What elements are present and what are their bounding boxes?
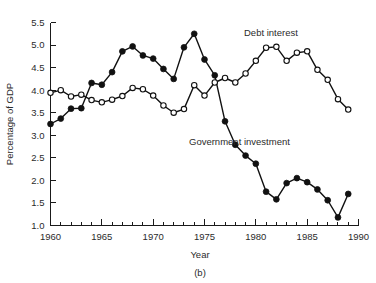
data-point — [109, 69, 115, 75]
data-point — [253, 161, 259, 167]
data-series-group — [48, 31, 352, 220]
data-point — [140, 87, 145, 92]
data-point — [212, 80, 217, 85]
x-tick-label: 1990 — [348, 231, 369, 242]
data-point — [48, 90, 53, 95]
data-point — [212, 72, 218, 78]
y-tick-label: 3.5 — [31, 107, 44, 118]
data-point — [181, 44, 187, 50]
data-point — [130, 44, 136, 50]
data-point — [161, 66, 167, 72]
data-point — [79, 92, 84, 97]
data-point — [68, 106, 74, 112]
data-point — [48, 121, 54, 127]
data-point — [325, 197, 331, 203]
series-annotation-debt-interest: Debt interest — [244, 27, 298, 38]
data-point — [335, 96, 340, 101]
series-line — [51, 34, 349, 218]
y-tick-label: 1.5 — [31, 197, 44, 208]
x-tick-label: 1980 — [245, 231, 266, 242]
x-tick-label: 1975 — [194, 231, 215, 242]
data-point — [284, 180, 290, 186]
data-point — [120, 93, 125, 98]
data-point — [284, 58, 289, 63]
data-point — [99, 100, 104, 105]
data-point — [58, 87, 63, 92]
data-point — [99, 82, 105, 88]
data-point — [89, 97, 94, 102]
data-point — [171, 76, 177, 82]
y-tick-label: 2.5 — [31, 152, 44, 163]
data-point — [109, 97, 114, 102]
data-point — [294, 50, 299, 55]
y-tick-label: 2.0 — [31, 175, 44, 186]
data-point — [346, 107, 351, 112]
series-debt-interest — [48, 44, 351, 115]
y-tick-label: 5.5 — [31, 17, 44, 28]
data-point — [222, 118, 228, 124]
data-point — [253, 58, 258, 63]
figure-caption: (b) — [194, 267, 206, 278]
data-point — [192, 83, 197, 88]
data-point — [161, 103, 166, 108]
data-point — [304, 49, 309, 54]
data-point — [119, 48, 125, 54]
data-point — [294, 175, 300, 181]
y-tick-label: 3.0 — [31, 130, 44, 141]
data-point — [315, 67, 320, 72]
series-government-investment — [48, 31, 352, 220]
x-tick-label: 1985 — [297, 231, 318, 242]
data-point — [150, 56, 156, 62]
data-point — [243, 71, 248, 76]
x-axis-label: Year — [190, 249, 209, 260]
chart-axes — [51, 23, 359, 226]
x-axis-ticks: 1960196519701975198019851990 — [40, 219, 369, 242]
data-point — [171, 110, 176, 115]
data-point — [78, 105, 84, 111]
data-point — [274, 44, 279, 49]
data-point — [202, 93, 207, 98]
y-tick-label: 4.5 — [31, 62, 44, 73]
data-point — [263, 189, 269, 195]
data-point — [150, 93, 155, 98]
x-tick-label: 1970 — [143, 231, 164, 242]
data-point — [315, 187, 321, 193]
data-point — [140, 53, 146, 59]
y-tick-label: 4.0 — [31, 85, 44, 96]
data-point — [243, 153, 249, 159]
data-point — [304, 179, 310, 185]
x-tick-label: 1960 — [40, 231, 61, 242]
data-point — [58, 116, 64, 122]
y-tick-label: 1.0 — [31, 220, 44, 231]
data-point — [222, 75, 227, 80]
data-point — [202, 57, 208, 63]
data-point — [191, 31, 197, 37]
y-axis-label: Percentage of GDP — [4, 83, 15, 165]
y-tick-label: 5.0 — [31, 39, 44, 50]
data-point — [181, 106, 186, 111]
figure-panel: 1.01.52.02.53.03.54.04.55.05.5 196019651… — [0, 0, 376, 283]
line-chart: 1.01.52.02.53.03.54.04.55.05.5 196019651… — [0, 0, 376, 283]
data-point — [335, 214, 341, 220]
series-line — [51, 47, 349, 113]
data-point — [130, 85, 135, 90]
data-point — [233, 80, 238, 85]
data-point — [263, 45, 268, 50]
series-annotation-government-investment: Government investment — [189, 136, 290, 147]
data-point — [325, 77, 330, 82]
data-point — [89, 80, 95, 86]
data-point — [345, 191, 351, 197]
data-point — [68, 94, 73, 99]
data-point — [273, 196, 279, 202]
x-tick-label: 1965 — [91, 231, 112, 242]
